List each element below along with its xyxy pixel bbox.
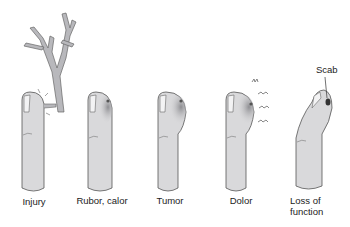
label-rubor-calor: Rubor, calor — [72, 195, 132, 206]
finger-rubor-calor — [88, 92, 112, 191]
finger-loss-of-function — [296, 77, 332, 189]
label-line-1: Loss of — [290, 195, 334, 206]
label-loss-of-function: Loss of function — [290, 195, 334, 217]
inflammation-diagram — [0, 0, 350, 227]
label-dolor: Dolor — [221, 195, 261, 206]
label-tumor: Tumor — [150, 195, 190, 206]
finger-dolor — [226, 79, 269, 191]
label-line-2: function — [290, 206, 334, 217]
label-injury: Injury — [14, 196, 54, 207]
scab-annotation: Scab — [316, 64, 338, 75]
finger-injury — [22, 89, 56, 191]
pain-lines-icon — [252, 79, 269, 122]
finger-tumor — [158, 92, 186, 191]
